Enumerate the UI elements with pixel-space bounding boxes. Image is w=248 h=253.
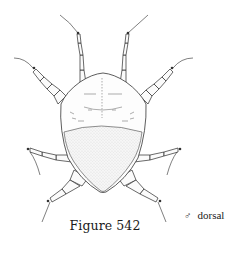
leg-front-right: [120, 15, 148, 83]
leg-front-left: [60, 15, 86, 83]
leg-second-left: [14, 58, 66, 104]
leg-fourth-right: [118, 170, 166, 222]
leg-third-left: [27, 148, 72, 175]
male-symbol-icon: ♂: [184, 210, 192, 221]
leg-fourth-left: [42, 170, 88, 222]
leg-third-right: [134, 148, 181, 175]
view-label-text: dorsal: [198, 209, 225, 221]
leg-second-right: [140, 58, 193, 104]
view-label: ♂dorsal: [184, 209, 224, 221]
figure-caption: Figure 542: [0, 218, 210, 233]
